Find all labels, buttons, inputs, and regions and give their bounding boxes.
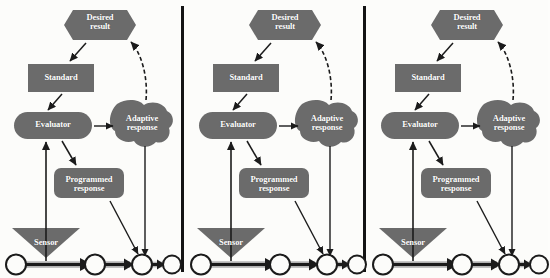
node-standard: [395, 64, 461, 92]
edge-standard-to-evaluator: [48, 94, 62, 110]
timeline-connector: [393, 258, 459, 271]
edge-programmed-to-timeline: [110, 201, 138, 254]
timeline-event-marker: [373, 255, 393, 275]
edge-programmed-to-timeline: [477, 201, 505, 254]
node-desired-result: [64, 10, 136, 40]
timeline-event-marker: [6, 255, 26, 275]
node-adaptive-response: [477, 100, 540, 147]
timeline-connector: [26, 258, 92, 271]
edge-standard-to-evaluator: [415, 94, 429, 110]
edge-evaluator-to-programmed: [62, 141, 76, 165]
panel-1: Desired result Standard Evaluator Adapti…: [0, 0, 183, 278]
node-desired-result: [249, 10, 321, 40]
panel-3: Desired result Standard Evaluator Adapti…: [367, 0, 550, 278]
timeline-connector: [211, 258, 277, 271]
node-programmed-response: [421, 168, 491, 198]
panel-2: Desired result Standard Evaluator Adapti…: [185, 0, 368, 278]
node-evaluator: [199, 112, 277, 139]
timeline-event-marker: [85, 255, 105, 275]
node-standard: [213, 64, 279, 92]
timeline: [373, 255, 548, 275]
timeline-event-marker: [348, 256, 366, 274]
timeline-event-marker: [499, 255, 519, 275]
edge-desired-to-standard: [437, 43, 453, 61]
node-programmed-response: [239, 168, 309, 198]
timeline-connector: [471, 259, 501, 271]
timeline-event-marker: [163, 256, 181, 274]
timeline-event-marker: [530, 256, 548, 274]
node-adaptive-response: [295, 100, 358, 147]
timeline-event-marker: [452, 255, 472, 275]
timeline-connector: [289, 259, 319, 271]
edge-adaptive-to-desired-dashed: [131, 42, 146, 100]
node-adaptive-response: [110, 100, 173, 147]
node-evaluator: [14, 112, 92, 139]
edge-evaluator-to-programmed: [429, 141, 443, 165]
node-standard: [28, 64, 94, 92]
panel-1-graphics: [0, 0, 183, 278]
edge-standard-to-evaluator: [233, 94, 247, 110]
panel-2-graphics: [185, 0, 368, 278]
edge-adaptive-to-desired-dashed: [316, 42, 331, 100]
edge-evaluator-to-programmed: [247, 141, 261, 165]
node-evaluator: [381, 112, 459, 139]
edge-desired-to-standard: [70, 43, 86, 61]
timeline-event-marker: [191, 255, 211, 275]
edge-adaptive-to-desired-dashed: [498, 42, 513, 100]
timeline-connector: [104, 259, 134, 271]
edge-programmed-to-timeline: [295, 201, 323, 254]
panel-3-graphics: [367, 0, 550, 278]
timeline-event-marker: [132, 255, 152, 275]
timeline-event-marker: [317, 255, 337, 275]
edge-desired-to-standard: [255, 43, 271, 61]
timeline-event-marker: [270, 255, 290, 275]
node-programmed-response: [54, 168, 124, 198]
timeline: [191, 255, 366, 275]
timeline: [6, 255, 181, 275]
node-desired-result: [431, 10, 503, 40]
